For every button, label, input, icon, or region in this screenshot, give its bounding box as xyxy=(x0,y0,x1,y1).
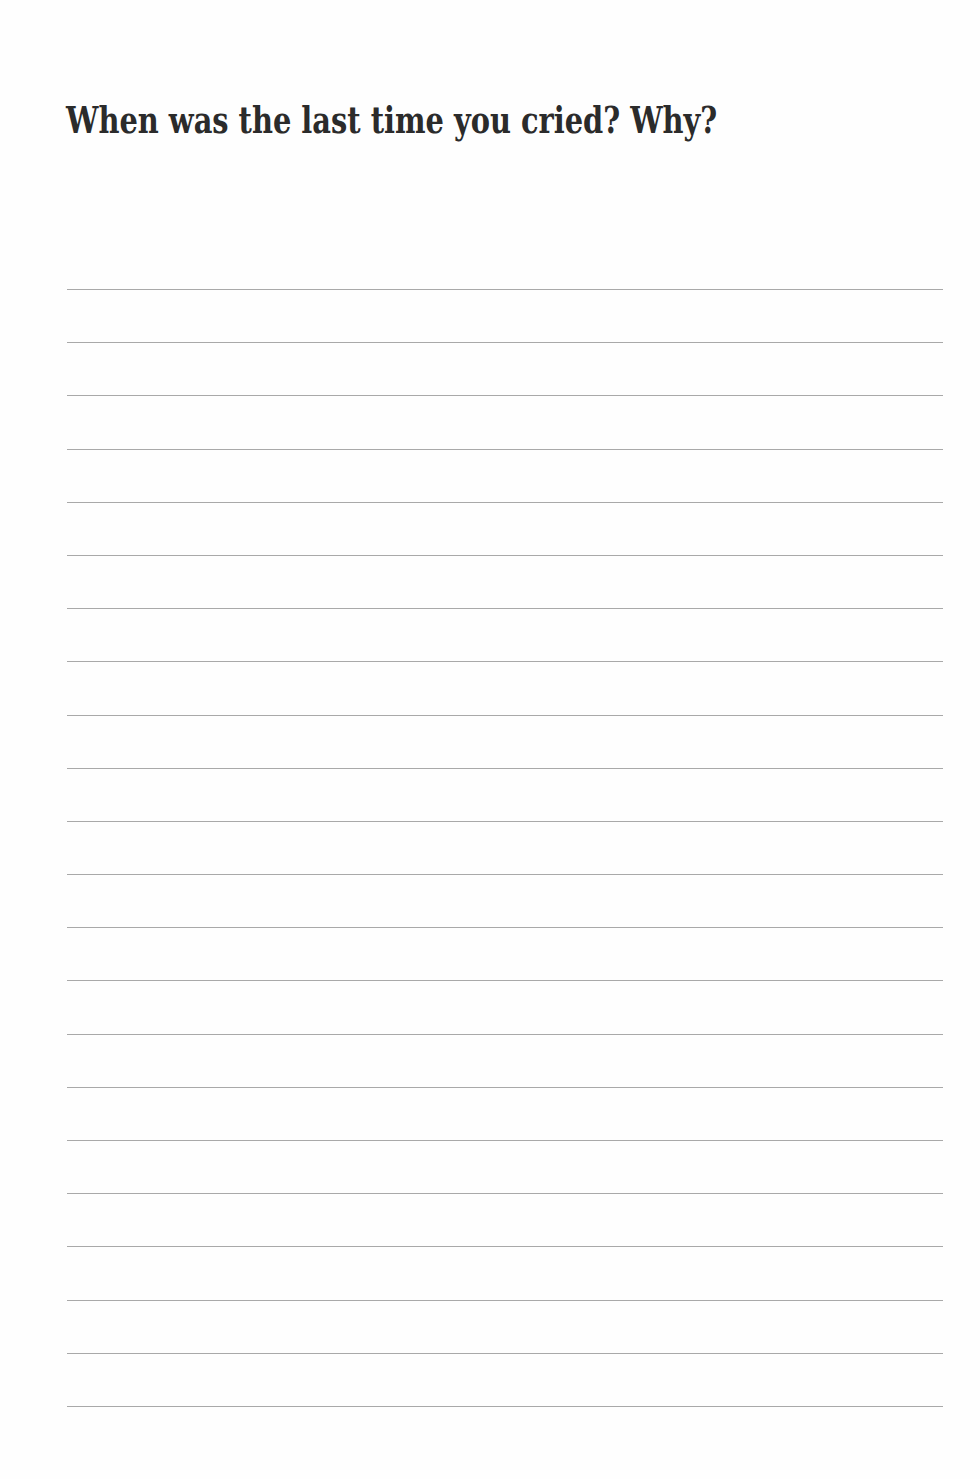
writing-line xyxy=(67,608,943,609)
writing-line xyxy=(67,502,943,503)
writing-line xyxy=(67,1246,943,1247)
writing-line xyxy=(67,342,943,343)
writing-line xyxy=(67,1300,943,1301)
writing-line xyxy=(67,395,943,396)
journal-page: When was the last time you cried? Why? xyxy=(0,0,980,1479)
prompt-heading: When was the last time you cried? Why? xyxy=(66,100,717,141)
writing-line xyxy=(67,821,943,822)
writing-line xyxy=(67,715,943,716)
writing-line xyxy=(67,927,943,928)
writing-line xyxy=(67,449,943,450)
writing-line xyxy=(67,874,943,875)
writing-line xyxy=(67,1034,943,1035)
writing-line xyxy=(67,980,943,981)
writing-line xyxy=(67,1140,943,1141)
writing-lines xyxy=(67,289,943,1459)
writing-line xyxy=(67,661,943,662)
writing-line xyxy=(67,1406,943,1407)
writing-line xyxy=(67,1193,943,1194)
writing-line xyxy=(67,555,943,556)
writing-line xyxy=(67,289,943,290)
writing-line xyxy=(67,1087,943,1088)
writing-line xyxy=(67,1353,943,1354)
writing-line xyxy=(67,768,943,769)
